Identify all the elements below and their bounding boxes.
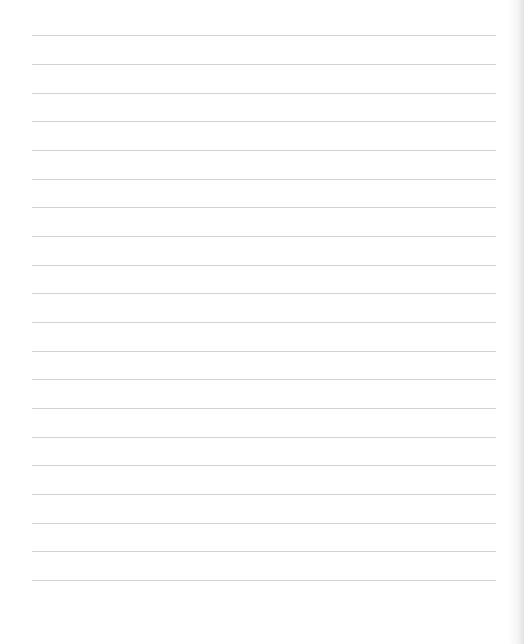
ruled-line [32,293,496,294]
ruled-line [32,265,496,266]
ruled-line [32,207,496,208]
ruled-line [32,121,496,122]
lined-paper-sheet [0,0,524,644]
ruled-line [32,551,496,552]
ruled-line [32,580,496,581]
paper-edge-shadow [518,0,524,644]
ruled-line [32,150,496,151]
ruled-line [32,351,496,352]
ruled-line [32,35,496,36]
ruled-line [32,322,496,323]
ruled-line [32,379,496,380]
ruled-line [32,236,496,237]
ruled-line [32,93,496,94]
ruled-line [32,465,496,466]
ruled-line [32,179,496,180]
ruled-line [32,64,496,65]
ruled-line [32,523,496,524]
ruled-line [32,437,496,438]
ruled-line [32,494,496,495]
ruled-line [32,408,496,409]
